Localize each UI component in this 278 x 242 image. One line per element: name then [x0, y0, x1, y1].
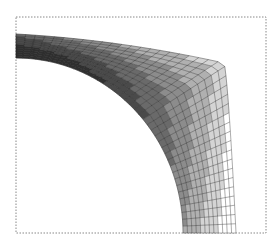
- fem-contour-figure: [0, 0, 278, 242]
